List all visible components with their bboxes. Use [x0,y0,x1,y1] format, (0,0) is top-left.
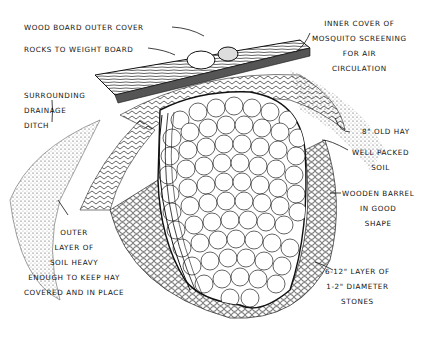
label-drainage-ditch: SURROUNDING DRAINAGE DITCH [24,88,85,133]
label-inner-cover: INNER COVER OF MOSQUITO SCREENING FOR AI… [312,16,407,76]
label-rocks: ROCKS TO WEIGHT BOARD [24,42,133,57]
label-packed-soil: WELL PACKED SOIL [352,145,409,175]
label-stones: 6-12" LAYER OF 1-2" DIAMETER STONES [325,264,390,309]
label-old-hay: 8" OLD HAY [362,124,410,139]
label-wood-board: WOOD BOARD OUTER COVER [24,20,144,35]
label-outer-soil: OUTER LAYER OF SOIL HEAVY ENOUGH TO KEEP… [24,225,124,300]
label-wooden-barrel: WOODEN BARREL IN GOOD SHAPE [342,186,414,231]
